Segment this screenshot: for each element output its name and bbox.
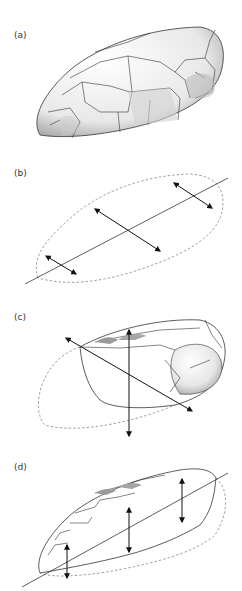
cut-section-diagram — [0, 300, 242, 445]
main-axis-line — [25, 178, 228, 284]
shaded-stone-illustration — [0, 0, 242, 150]
panel-d: (d) — [0, 445, 242, 591]
flattened-section-diagram — [0, 445, 242, 591]
panel-b: (b) — [0, 150, 242, 300]
panel-c: (c) — [0, 300, 242, 445]
axis-arrows-diagram — [0, 150, 242, 300]
panel-a: (a) — [0, 0, 242, 150]
